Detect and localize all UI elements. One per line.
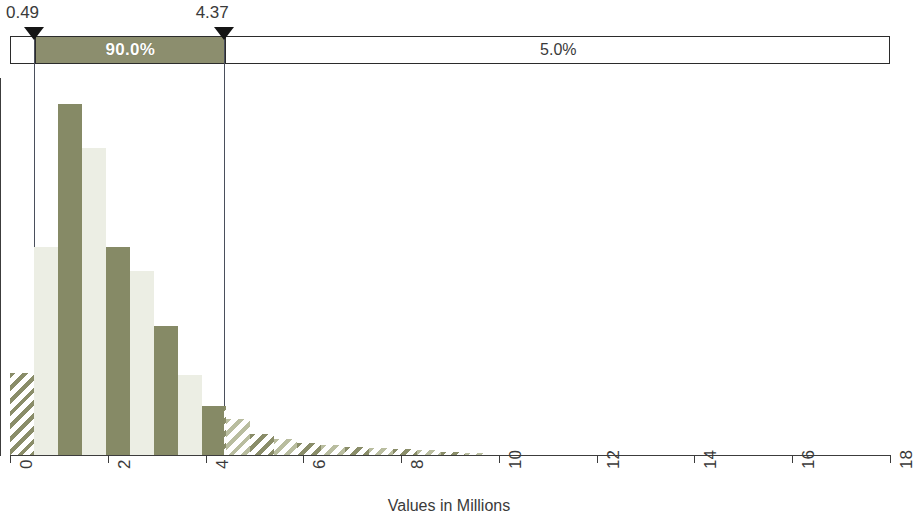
- x-tick: [303, 455, 304, 463]
- histogram-bar: [321, 445, 345, 455]
- percentile-marker-handle-0[interactable]: [24, 27, 44, 40]
- x-tick-label: 14: [701, 450, 721, 469]
- histogram-bar: [274, 439, 298, 455]
- histogram-bar: [297, 443, 321, 455]
- x-tick: [401, 455, 402, 463]
- histogram-bar: [34, 247, 58, 455]
- percentile-marker-value-1[interactable]: 4.37: [196, 3, 229, 23]
- histogram-bar: [250, 434, 274, 455]
- histogram-plot-area: [10, 78, 890, 455]
- x-tick-label: 18: [897, 450, 917, 469]
- percentile-marker-handle-1[interactable]: [214, 27, 234, 40]
- histogram-bar: [226, 419, 250, 455]
- histogram-bar: [369, 448, 393, 455]
- histogram-bar: [202, 406, 224, 455]
- histogram-bar: [82, 148, 106, 455]
- percentile-segment-1: 90.0%: [35, 37, 225, 63]
- x-tick-label: 0: [17, 460, 37, 469]
- x-axis-line: [10, 455, 890, 456]
- histogram-bar: [178, 375, 202, 455]
- histogram-bar: [130, 271, 154, 455]
- histogram-bar: [154, 326, 178, 455]
- x-tick: [694, 455, 695, 463]
- percentile-marker-value-0[interactable]: 0.49: [6, 3, 39, 23]
- x-tick: [597, 455, 598, 463]
- y-axis-line: [0, 78, 1, 456]
- x-tick: [10, 455, 11, 463]
- x-tick: [108, 455, 109, 463]
- x-tick: [792, 455, 793, 463]
- histogram-bar: [345, 447, 369, 455]
- percentile-segment-label: 5.0%: [540, 41, 576, 59]
- histogram-bar: [10, 373, 34, 455]
- x-tick-label: 8: [408, 460, 428, 469]
- x-tick-label: 12: [604, 450, 624, 469]
- x-tick: [206, 455, 207, 463]
- x-tick-label: 10: [506, 450, 526, 469]
- percentile-segment-0: [11, 37, 35, 63]
- histogram-bar: [58, 104, 82, 455]
- x-tick-label: 16: [799, 450, 819, 469]
- histogram-bar: [106, 247, 130, 455]
- x-tick: [499, 455, 500, 463]
- x-tick: [890, 455, 891, 463]
- x-tick-label: 2: [115, 460, 135, 469]
- x-tick-label: 6: [310, 460, 330, 469]
- percentile-bar: 90.0%5.0%: [10, 36, 890, 64]
- x-tick-label: 4: [213, 460, 233, 469]
- percentile-segment-label: 90.0%: [105, 40, 155, 60]
- percentile-segment-2: 5.0%: [225, 37, 891, 63]
- x-axis-title: Values in Millions: [0, 497, 898, 515]
